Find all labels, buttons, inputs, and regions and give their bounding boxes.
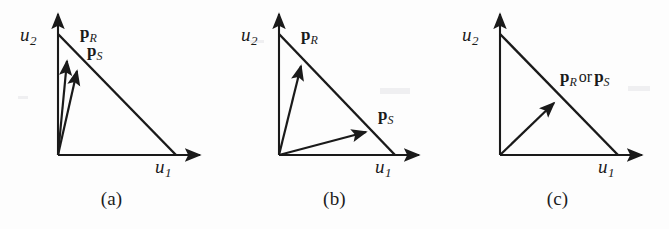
panel-a-caption: (a) (0, 188, 223, 210)
vector-label-ps: pS (87, 42, 102, 62)
vector-label-pr-sub: R (310, 33, 317, 47)
vector-label-pr-or-ps: pRorpS (560, 68, 610, 88)
axis-label-u1: u1 (155, 157, 172, 179)
vector-label-pr-sub: R (569, 75, 576, 89)
vector-pr-or-ps (500, 103, 554, 155)
vector-pr (279, 66, 301, 155)
axis-label-u1: u1 (598, 157, 615, 179)
panel-b-caption: (b) (223, 188, 446, 210)
axis-label-u1-sub: 1 (165, 165, 172, 180)
axis-label-u2-sub: 2 (472, 33, 479, 48)
vector-label-ps-sub: S (387, 113, 393, 127)
vector-pr (58, 61, 67, 155)
axis-label-u1-base: u (155, 156, 165, 177)
axis-label-u1-sub: 1 (385, 165, 392, 180)
axis-label-u2-base: u (241, 24, 251, 45)
figure-container: u2 u1 pR pS (a) (0, 0, 669, 229)
axis-label-u2: u2 (20, 25, 37, 47)
vector-label-conjunction: or (579, 68, 592, 85)
vector-label-ps-symbol: p (594, 67, 603, 86)
panel-a: u2 u1 pR pS (a) (0, 0, 223, 229)
axis-label-u2: u2 (241, 25, 258, 47)
vector-label-ps-sub: S (604, 75, 610, 89)
vector-ps (58, 71, 77, 155)
axis-label-u1-base: u (598, 156, 608, 177)
vector-ps (279, 132, 366, 155)
panel-c-caption: (c) (446, 188, 669, 210)
axis-label-u1-base: u (375, 156, 385, 177)
panel-c-axes-and-vectors (446, 0, 669, 185)
axis-label-u2: u2 (462, 25, 479, 47)
vector-label-ps-sub: S (96, 49, 102, 63)
panel-b: u2 u1 pR pS (b) (223, 0, 446, 229)
axis-label-u2-base: u (20, 24, 30, 45)
axis-label-u2-base: u (462, 24, 472, 45)
vector-label-pr: pR (301, 26, 318, 46)
vector-label-ps: pS (378, 106, 393, 126)
simplex-line (58, 34, 176, 155)
simplex-line (279, 34, 395, 155)
panel-c: u2 u1 pRorpS (c) (446, 0, 669, 229)
axis-label-u1: u1 (375, 157, 392, 179)
axis-label-u2-sub: 2 (30, 33, 37, 48)
axis-label-u2-sub: 2 (251, 33, 258, 48)
axis-label-u1-sub: 1 (608, 165, 615, 180)
